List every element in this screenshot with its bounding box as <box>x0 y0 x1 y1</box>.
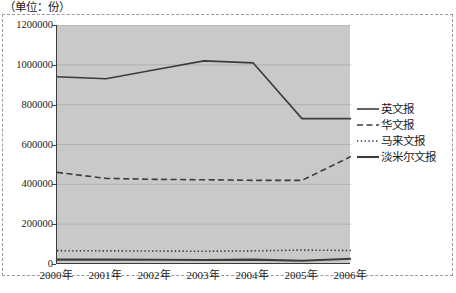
legend-line-swatch <box>357 103 379 115</box>
plot-lines-svg <box>57 25 351 264</box>
y-axis-tick-label: 0 <box>0 258 53 269</box>
legend-line-swatch <box>357 151 379 163</box>
series-lines <box>57 61 351 261</box>
y-axis-tick-label: 800000 <box>0 99 53 110</box>
x-axis-tick-label: 2002年 <box>128 269 180 281</box>
chart-figure: （单位：份） 120000010000008000006000004000002… <box>0 0 456 293</box>
y-axis-tick-label: 1200000 <box>0 19 53 30</box>
legend-item-label: 马来文报 <box>381 135 425 148</box>
x-axis-tick-label: 2001年 <box>79 269 131 281</box>
legend-item-label: 淡米尔文报 <box>381 151 436 164</box>
legend-line-swatch <box>357 119 379 131</box>
x-axis-tick-label: 2005年 <box>275 269 327 281</box>
x-axis-tick-label: 2006年 <box>324 269 376 281</box>
legend-item[interactable]: 马来文报 <box>357 133 456 149</box>
chart-legend: 英文报华文报马来文报淡米尔文报 <box>357 101 456 165</box>
legend-item[interactable]: 华文报 <box>357 117 456 133</box>
y-axis-tick-label: 200000 <box>0 218 53 229</box>
series-line <box>57 156 351 180</box>
y-axis-tick-label: 600000 <box>0 139 53 150</box>
legend-line-swatch <box>357 135 379 147</box>
y-axis-tick-label: 1000000 <box>0 59 53 70</box>
series-line <box>57 259 351 261</box>
legend-item[interactable]: 淡米尔文报 <box>357 149 456 165</box>
x-axis-tick-label: 2004年 <box>226 269 278 281</box>
x-axis-tick-label: 2000年 <box>30 269 82 281</box>
x-axis-tick-label: 2003年 <box>177 269 229 281</box>
legend-item[interactable]: 英文报 <box>357 101 456 117</box>
y-axis-tick-mark <box>52 264 56 265</box>
y-axis-tick-label: 400000 <box>0 178 53 189</box>
gridlines <box>57 25 351 224</box>
series-line <box>57 61 351 119</box>
legend-item-label: 英文报 <box>381 103 414 116</box>
unit-label: （单位：份） <box>4 1 70 14</box>
legend-item-label: 华文报 <box>381 119 414 132</box>
series-line <box>57 250 351 251</box>
plot-area <box>56 25 350 264</box>
